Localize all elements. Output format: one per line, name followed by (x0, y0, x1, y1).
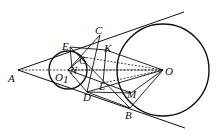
point-label-O1: O1 (55, 71, 68, 85)
point-label-A: A (7, 72, 15, 84)
segment-KO (106, 50, 163, 70)
point-label-E: E (61, 40, 69, 52)
point-label-N: N (69, 64, 78, 76)
segment-GO-dashed (83, 57, 163, 70)
point-label-M: M (126, 88, 137, 100)
point-label-B: B (125, 109, 132, 121)
upper-tangent (18, 12, 184, 70)
point-label-C: C (95, 24, 103, 36)
point-label-G: G (79, 54, 87, 66)
segment-DM (87, 92, 131, 93)
point-label-D: D (82, 91, 91, 103)
point-label-K: K (103, 42, 112, 54)
geometry-diagram: AO1OCEKGNDLMB (0, 0, 218, 135)
segment-KL (103, 50, 106, 83)
point-label-L: L (98, 80, 105, 92)
point-label-O: O (165, 65, 173, 77)
